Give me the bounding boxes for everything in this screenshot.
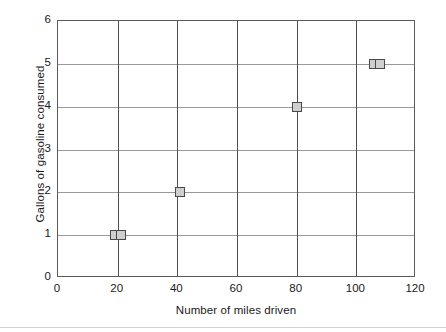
y-tick-label: 5 [25, 57, 51, 69]
gridline-horizontal [58, 64, 414, 65]
gridline-horizontal [58, 150, 414, 151]
data-point [116, 230, 126, 240]
data-point [375, 59, 385, 69]
y-tick-label: 2 [25, 185, 51, 197]
gridline-vertical [237, 21, 238, 276]
x-tick-label: 20 [97, 283, 137, 295]
gridline-vertical [297, 21, 298, 276]
y-tick-label: 1 [25, 228, 51, 240]
data-point [292, 102, 302, 112]
x-tick-label: 40 [156, 283, 196, 295]
scatter-chart: Gallons of gasoline consumed 0123456 020… [0, 0, 446, 332]
bottom-divider [0, 327, 446, 328]
x-tick-label: 60 [216, 283, 256, 295]
x-tick-label: 120 [395, 283, 435, 295]
x-tick-label: 80 [276, 283, 316, 295]
x-axis-tick-labels: 020406080100120 [57, 283, 415, 299]
gridline-vertical [356, 21, 357, 276]
plot-area [57, 20, 415, 277]
y-tick-label: 0 [25, 271, 51, 283]
x-tick-label: 100 [335, 283, 375, 295]
x-axis-title: Number of miles driven [57, 304, 415, 316]
y-tick-label: 4 [25, 100, 51, 112]
x-tick-label: 0 [37, 283, 77, 295]
gridline-horizontal [58, 107, 414, 108]
y-axis-tick-labels: 0123456 [21, 20, 51, 277]
gridline-vertical [177, 21, 178, 276]
gridline-horizontal [58, 192, 414, 193]
y-tick-label: 3 [25, 143, 51, 155]
data-point [175, 187, 185, 197]
y-tick-label: 6 [25, 14, 51, 26]
